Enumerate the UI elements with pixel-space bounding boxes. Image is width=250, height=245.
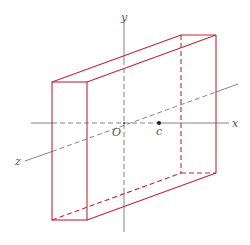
- y-axis-label: y: [120, 11, 128, 24]
- point-c-label: c: [156, 125, 162, 138]
- origin-label: O: [112, 126, 121, 139]
- x-axis-label: x: [232, 117, 239, 130]
- z-axis: [25, 84, 238, 161]
- z-axis-label: z: [14, 155, 21, 168]
- origin-point: [123, 122, 125, 124]
- rectangular-box: [52, 35, 216, 220]
- box-axes-diagram: y x z O c: [0, 0, 250, 245]
